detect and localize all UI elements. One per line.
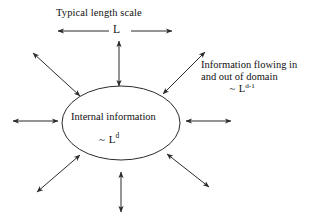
tilde-symbol-inner: ~ — [99, 133, 106, 145]
scaling-exponent: d-1 — [245, 81, 255, 89]
typical-length-scale-label: Typical length scale — [56, 7, 142, 19]
arrow-lower-right — [167, 154, 209, 187]
diagram-vector-layer — [0, 0, 315, 223]
arrow-upper-right — [163, 52, 205, 94]
internal-information-label: Internal information — [71, 111, 156, 123]
scaling-exponent-inner: d — [115, 131, 119, 140]
information-flow-scaling: ~ Ld-1 — [201, 83, 297, 95]
internal-information-scaling: ~ Ld — [99, 133, 119, 145]
domain-ellipse — [62, 86, 180, 160]
information-flow-label: Information flowing in and out of domain… — [201, 59, 297, 94]
length-symbol-label: L — [113, 23, 120, 36]
arrow-upper-left — [33, 53, 80, 96]
information-flow-line-1: Information flowing in — [201, 59, 297, 71]
arrow-lower-left — [37, 155, 80, 192]
information-flow-diagram: Typical length scale L Information flowi… — [0, 0, 315, 223]
tilde-symbol: ~ — [230, 83, 237, 94]
